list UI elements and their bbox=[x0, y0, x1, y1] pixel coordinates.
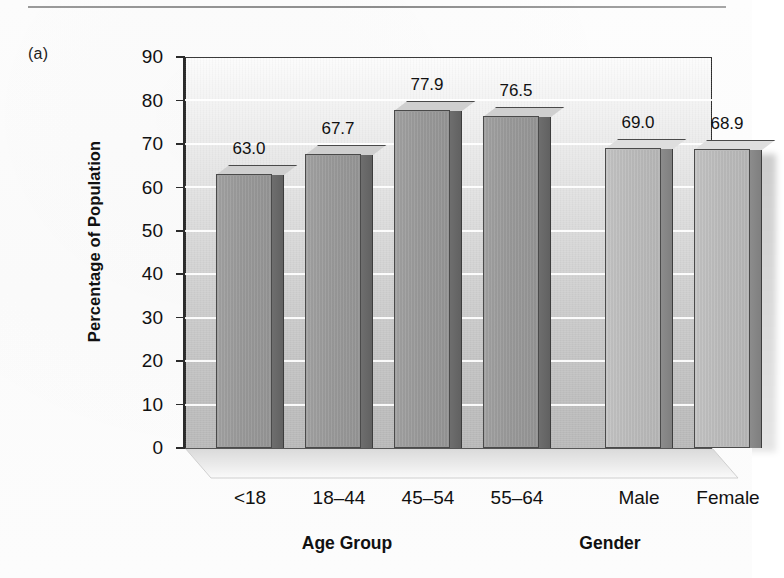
y-axis-title: Percentage of Population bbox=[85, 82, 104, 402]
y-axis-spine bbox=[183, 57, 185, 448]
y-axis-tick-label: 0 bbox=[152, 438, 163, 457]
header-rule bbox=[28, 6, 726, 8]
chart-floor-shape bbox=[185, 448, 745, 484]
bar: 63.0 bbox=[216, 165, 272, 448]
bar-side-face bbox=[271, 174, 284, 448]
bar-side-face bbox=[360, 154, 373, 448]
bar-front-face bbox=[305, 154, 361, 448]
y-axis-tick: 80 bbox=[176, 100, 185, 102]
bar-value-label: 76.5 bbox=[469, 82, 563, 99]
y-axis-tick: 40 bbox=[176, 273, 185, 275]
y-axis-tick: 0 bbox=[176, 447, 185, 449]
y-axis-tick-label: 20 bbox=[142, 351, 163, 370]
y-axis-tick-label: 10 bbox=[142, 394, 163, 413]
category-label: Female bbox=[672, 487, 784, 509]
y-axis-tick: 90 bbox=[176, 56, 185, 58]
y-axis-tick: 70 bbox=[176, 143, 185, 145]
y-axis-tick: 30 bbox=[176, 317, 185, 319]
bar-side-face bbox=[660, 148, 673, 448]
bar-side-face bbox=[749, 149, 762, 448]
bar-front-face bbox=[605, 148, 661, 448]
bar-value-label: 63.0 bbox=[202, 140, 296, 157]
bar-front-face bbox=[694, 149, 750, 448]
panel-label: (a) bbox=[28, 45, 48, 63]
bar-value-label: 69.0 bbox=[591, 114, 685, 131]
bar-front-face bbox=[216, 174, 272, 448]
bar-front-face bbox=[483, 116, 539, 448]
bar: 69.0 bbox=[605, 139, 661, 448]
bar: 76.5 bbox=[483, 107, 539, 448]
bar: 67.7 bbox=[305, 145, 361, 448]
y-axis-tick-label: 60 bbox=[142, 177, 163, 196]
y-axis-tick-label: 80 bbox=[142, 90, 163, 109]
bar: 77.9 bbox=[394, 101, 450, 448]
y-axis-tick-label: 90 bbox=[142, 47, 163, 66]
y-axis-tick: 20 bbox=[176, 360, 185, 362]
bar-value-label: 77.9 bbox=[380, 76, 474, 93]
chart-floor bbox=[185, 448, 745, 484]
y-axis-tick: 50 bbox=[176, 230, 185, 232]
bar: 68.9 bbox=[694, 140, 750, 448]
bar-value-label: 68.9 bbox=[680, 115, 774, 132]
bar-front-face bbox=[394, 110, 450, 448]
y-axis-tick: 60 bbox=[176, 187, 185, 189]
y-axis-tick-label: 30 bbox=[142, 307, 163, 326]
bar-side-face bbox=[449, 110, 462, 448]
category-label: 55–64 bbox=[461, 487, 573, 509]
group-title: Gender bbox=[530, 533, 690, 554]
plot-area: 0102030405060708090 63.067.777.976.569.0… bbox=[185, 57, 712, 448]
y-axis-tick-label: 50 bbox=[142, 220, 163, 239]
bar-value-label: 67.7 bbox=[291, 120, 385, 137]
bar-side-face bbox=[538, 116, 551, 448]
y-axis-tick-label: 70 bbox=[142, 134, 163, 153]
y-axis-tick: 10 bbox=[176, 404, 185, 406]
group-title: Age Group bbox=[232, 533, 462, 554]
y-axis-tick-label: 40 bbox=[142, 264, 163, 283]
